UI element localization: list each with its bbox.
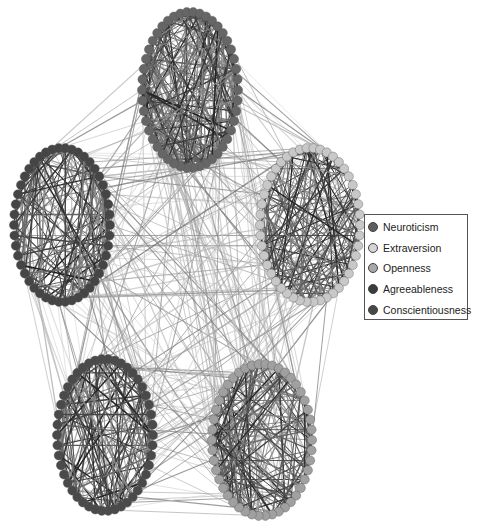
legend-label: Neuroticism	[383, 221, 438, 233]
cluster-conscientiousness	[52, 355, 157, 516]
legend-label: Openness	[383, 262, 431, 274]
cluster-agreeableness	[9, 144, 114, 307]
legend-label: Conscientiousness	[383, 304, 471, 316]
conscientiousness-dot-icon	[368, 305, 378, 315]
legend-label: Agreeableness	[383, 283, 453, 295]
legend-label: Extraversion	[383, 242, 441, 254]
legend: Neuroticism Extraversion Openness Agreea…	[364, 214, 468, 320]
cluster-extraversion	[255, 144, 364, 307]
agreeableness-dot-icon	[368, 284, 378, 294]
legend-item-neuroticism: Neuroticism	[368, 217, 467, 238]
legend-item-extraversion: Extraversion	[368, 238, 467, 259]
neuroticism-dot-icon	[368, 222, 378, 232]
legend-item-agreeableness: Agreeableness	[368, 279, 467, 300]
extraversion-dot-icon	[368, 243, 378, 253]
openness-dot-icon	[368, 263, 378, 273]
cluster-neuroticism	[137, 8, 242, 173]
legend-item-conscientiousness: Conscientiousness	[368, 299, 467, 320]
legend-item-openness: Openness	[368, 258, 467, 279]
